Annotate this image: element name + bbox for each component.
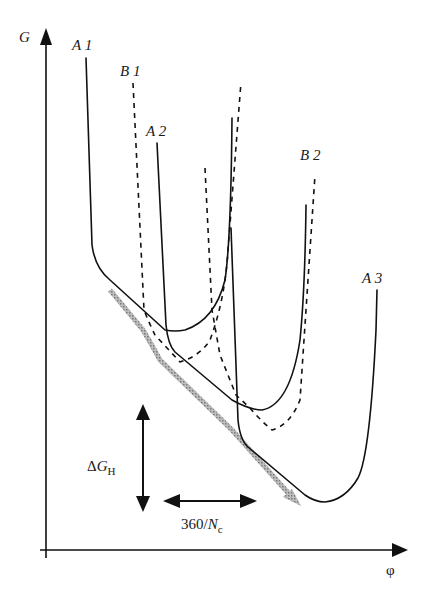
curve-label-a1: A 1 <box>71 37 92 53</box>
period-label: 360/Nc <box>181 516 223 535</box>
svg-text:B 2: B 2 <box>300 147 321 163</box>
x-axis-label: φ <box>386 562 395 578</box>
curve-label-b2: B 2 <box>300 147 321 163</box>
delta-g-label: ΔGH <box>87 458 116 477</box>
y-axis-label: G <box>19 29 30 45</box>
x-axis-arrowhead <box>392 543 408 557</box>
period-arrow-left <box>163 494 180 508</box>
svg-text:B 1: B 1 <box>120 63 140 79</box>
curve-label-a3: A 3 <box>361 270 382 286</box>
delta-g-arrow-down <box>136 496 150 512</box>
curve-label-a2: A 2 <box>145 123 167 139</box>
delta-g-arrow-up <box>136 404 150 420</box>
gibbs-energy-diagram: G φ A 1 B 1 A 2 B 2 A 3 ΔGH 360/Nc <box>0 0 426 599</box>
curve-label-b1: B 1 <box>120 63 140 79</box>
svg-text:A 2: A 2 <box>145 123 167 139</box>
y-axis-arrowhead <box>40 28 52 45</box>
svg-text:A 1: A 1 <box>71 37 92 53</box>
envelope-arrow <box>110 290 290 495</box>
period-arrow-right <box>240 494 257 508</box>
svg-text:A 3: A 3 <box>361 270 382 286</box>
